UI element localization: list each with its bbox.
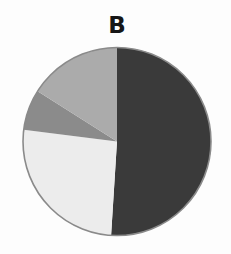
pie-chart bbox=[0, 0, 231, 254]
pie-slices bbox=[23, 47, 211, 235]
pie-slice-1 bbox=[111, 47, 211, 235]
pie-slice-2 bbox=[23, 130, 117, 236]
